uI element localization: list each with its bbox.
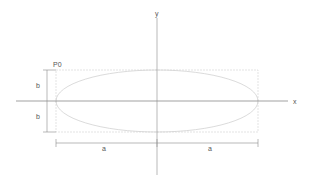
diagram-svg: y x P0 b b a a <box>0 0 311 180</box>
ellipse-diagram: y x P0 b b a a <box>0 0 311 180</box>
x-axis-label: x <box>293 98 297 105</box>
b-lower-label: b <box>36 113 40 120</box>
y-axis-label: y <box>155 10 159 18</box>
b-upper-label: b <box>36 82 40 89</box>
a-left-label: a <box>102 145 106 152</box>
p0-label: P0 <box>53 61 62 68</box>
a-right-label: a <box>208 145 212 152</box>
